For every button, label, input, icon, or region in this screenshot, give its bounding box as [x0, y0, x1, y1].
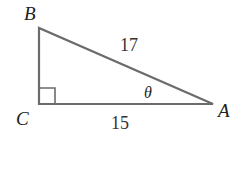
- hypotenuse-label: 17: [120, 35, 138, 55]
- triangle-diagram: B C A 17 15 θ: [0, 0, 236, 169]
- right-angle-marker: [39, 88, 55, 104]
- vertex-label-b: B: [24, 3, 36, 24]
- vertex-label-c: C: [16, 108, 29, 129]
- angle-theta-label: θ: [144, 84, 152, 101]
- base-label: 15: [111, 113, 129, 133]
- vertex-label-a: A: [216, 100, 230, 121]
